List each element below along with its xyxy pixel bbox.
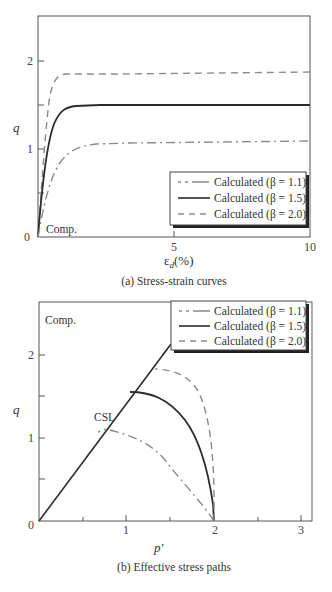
legend-label-1.1: Calculated (β = 1.1) <box>214 305 306 318</box>
axis-ticks <box>39 355 301 521</box>
x-tick-1: 1 <box>123 523 129 537</box>
y-ticks <box>38 61 174 237</box>
x-tick-5: 5 <box>171 240 177 254</box>
figure: 0 1 2 5 10 q εd(%) (a) Stress-strain cur… <box>0 0 332 592</box>
caption-b: (b) Effective stress paths <box>117 561 231 574</box>
x-axis-label: p′ <box>153 540 164 555</box>
y-tick-2: 2 <box>27 54 33 68</box>
stress-strain-chart: 0 1 2 5 10 q εd(%) (a) Stress-strain cur… <box>13 16 316 288</box>
comp-label: Comp. <box>45 314 76 327</box>
csl-label: CSL <box>94 411 115 423</box>
y-tick-1: 1 <box>28 431 34 445</box>
csl-line <box>39 344 171 521</box>
y-tick-2: 2 <box>28 348 34 362</box>
legend-top: Calculated (β = 1.1) Calculated (β = 1.5… <box>170 172 309 228</box>
effective-stress-path-chart: 0 1 2 3 1 2 q p′ (b) Effective stress pa… <box>13 301 312 574</box>
caption-a: (a) Stress-strain curves <box>121 275 227 288</box>
x-tick-10: 10 <box>304 240 316 254</box>
x-tick-0: 0 <box>28 518 34 532</box>
y-axis-label: q <box>13 120 20 135</box>
y-tick-1: 1 <box>27 142 33 156</box>
legend-label-1.5: Calculated (β = 1.5) <box>214 320 306 333</box>
legend-bottom: Calculated (β = 1.1) Calculated (β = 1.5… <box>171 301 309 353</box>
path-beta-2.0 <box>155 369 214 521</box>
y-tick-0: 0 <box>24 230 30 244</box>
path-beta-1.5 <box>130 392 214 521</box>
path-beta-1.1 <box>98 429 214 521</box>
y-axis-label: q <box>13 402 20 417</box>
x-tick-3: 3 <box>298 523 304 537</box>
legend-label-2.0: Calculated (β = 2.0) <box>214 335 306 348</box>
comp-label: Comp. <box>46 223 77 236</box>
x-axis-label: εd(%) <box>164 253 193 270</box>
legend-label-2.0: Calculated (β = 2.0) <box>214 208 306 221</box>
x-tick-2: 2 <box>212 523 218 537</box>
legend-label-1.5: Calculated (β = 1.5) <box>214 192 306 205</box>
legend-label-1.1: Calculated (β = 1.1) <box>214 176 306 189</box>
